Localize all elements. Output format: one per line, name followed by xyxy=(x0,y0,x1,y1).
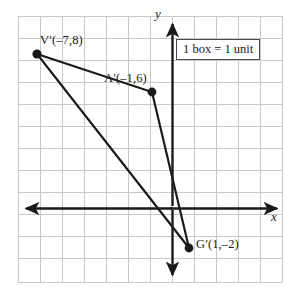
coordinate-plane-figure: 1 box = 1 unit V′(–7,8) A′(–1,6) G′(1,–2… xyxy=(0,0,298,298)
vertex-dot-g xyxy=(185,244,194,253)
vertex-dot-v xyxy=(32,49,41,58)
legend-text: 1 box = 1 unit xyxy=(183,42,253,56)
point-label-g: G′(1,–2) xyxy=(196,237,239,252)
legend-box: 1 box = 1 unit xyxy=(176,39,260,60)
y-axis-label: y xyxy=(155,6,161,22)
point-label-v: V′(–7,8) xyxy=(40,33,83,48)
vertex-dot-a xyxy=(148,88,157,97)
point-label-a: A′(–1,6) xyxy=(104,71,147,86)
x-axis-label: x xyxy=(271,209,277,225)
